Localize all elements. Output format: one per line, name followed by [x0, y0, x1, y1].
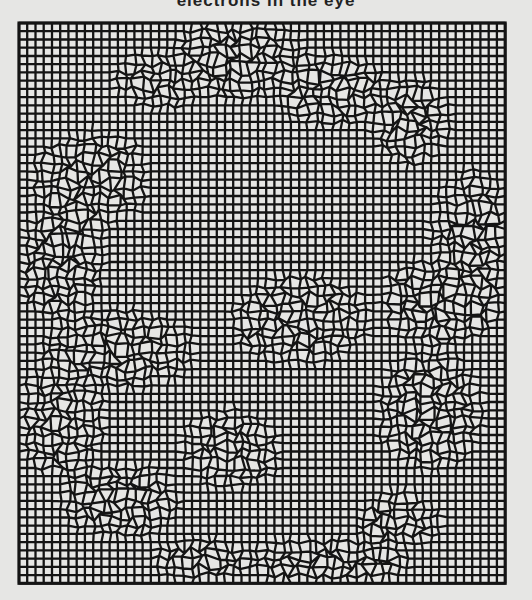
lattice-figure: [0, 0, 532, 600]
lattice-lines: [19, 23, 505, 583]
